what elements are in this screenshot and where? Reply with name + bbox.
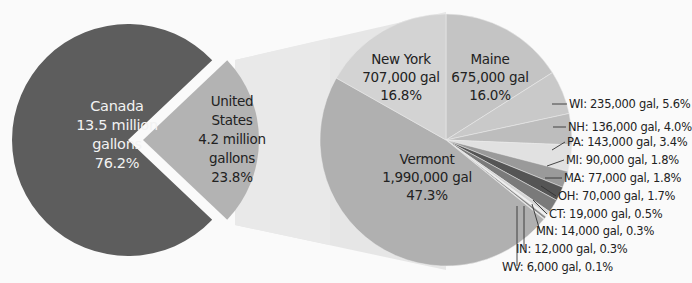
label-us-name1: United — [188, 92, 276, 111]
label-in: IN: 12,000 gal, 0.3% — [516, 242, 628, 256]
label-wi: WI: 235,000 gal, 5.6% — [569, 97, 690, 111]
label-us-amount: 4.2 million — [188, 130, 276, 149]
label-vermont: Vermont 1,990,000 gal 47.3% — [368, 150, 486, 204]
label-ny-pct: 16.8% — [356, 86, 446, 104]
label-ct: CT: 19,000 gal, 0.5% — [549, 207, 662, 221]
label-maine-pct: 16.0% — [448, 86, 532, 104]
label-ny-amount: 707,000 gal — [356, 68, 446, 86]
label-ma: MA: 77,000 gal, 1.8% — [564, 171, 681, 185]
label-ny-name: New York — [356, 50, 446, 68]
label-pa: PA: 143,000 gal, 3.4% — [567, 135, 687, 149]
label-united-states: United States 4.2 million gallons 23.8% — [188, 92, 276, 187]
label-mi: MI: 90,000 gal, 1.8% — [566, 153, 679, 167]
label-maine-amount: 675,000 gal — [448, 68, 532, 86]
label-oh: OH: 70,000 gal, 1.7% — [558, 189, 675, 203]
label-vermont-name: Vermont — [368, 150, 486, 168]
label-us-unit: gallons — [188, 149, 276, 168]
label-canada-pct: 76.2% — [52, 154, 182, 173]
label-maine: Maine 675,000 gal 16.0% — [448, 50, 532, 104]
label-maine-name: Maine — [448, 50, 532, 68]
label-canada: Canada 13.5 million gallons 76.2% — [52, 97, 182, 173]
label-us-pct: 23.8% — [188, 168, 276, 187]
label-canada-unit: gallons — [52, 135, 182, 154]
label-wv: WV: 6,000 gal, 0.1% — [502, 260, 613, 274]
label-vermont-amount: 1,990,000 gal — [368, 168, 486, 186]
label-canada-amount: 13.5 million — [52, 116, 182, 135]
label-new-york: New York 707,000 gal 16.8% — [356, 50, 446, 104]
label-canada-name: Canada — [52, 97, 182, 116]
label-vermont-pct: 47.3% — [368, 186, 486, 204]
label-us-name2: States — [188, 111, 276, 130]
label-nh: NH: 136,000 gal, 4.0% — [568, 120, 692, 134]
label-mn: MN: 14,000 gal, 0.3% — [536, 224, 654, 238]
